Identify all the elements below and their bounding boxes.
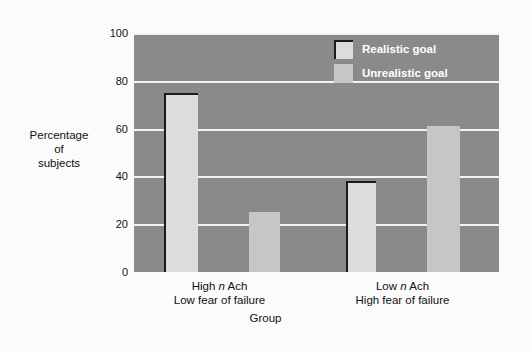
legend-label-realistic: Realistic goal	[362, 43, 436, 55]
legend-item-unrealistic: Unrealistic goal	[334, 62, 448, 84]
y-tick-20: 20	[116, 218, 128, 230]
y-axis-title-line2: of	[22, 142, 96, 156]
bar-chart-figure: Realistic goal Unrealistic goal 100 80 6…	[0, 0, 531, 352]
legend-swatch-realistic-icon	[334, 40, 353, 59]
bar-high-nach-unrealistic	[249, 212, 280, 272]
legend-label-unrealistic: Unrealistic goal	[362, 67, 448, 79]
x-category-high-nach-line1: High n Ach	[137, 279, 302, 293]
x-cat1-pre: High	[192, 280, 219, 292]
bar-low-nach-unrealistic	[427, 126, 460, 272]
bar-high-nach-realistic	[164, 93, 198, 272]
x-axis-title: Group	[0, 312, 531, 324]
x-cat1-post: Ach	[225, 280, 247, 292]
x-cat2-post: Ach	[407, 280, 429, 292]
plot-area: Realistic goal Unrealistic goal	[134, 33, 499, 272]
x-category-high-nach-line2: Low fear of failure	[137, 293, 302, 307]
chart-legend: Realistic goal Unrealistic goal	[334, 38, 448, 86]
x-category-low-nach-line1: Low n Ach	[320, 279, 485, 293]
y-tick-40: 40	[116, 170, 128, 182]
x-cat2-pre: Low	[376, 280, 400, 292]
y-axis-title-line1: Percentage	[22, 128, 96, 142]
x-category-low-nach-line2: High fear of failure	[320, 293, 485, 307]
y-axis-title: Percentage of subjects	[22, 128, 96, 170]
y-tick-100: 100	[110, 27, 128, 39]
y-tick-60: 60	[116, 123, 128, 135]
legend-swatch-unrealistic-icon	[334, 64, 353, 83]
x-category-low-nach: Low n Ach High fear of failure	[320, 279, 485, 307]
y-tick-80: 80	[116, 75, 128, 87]
y-axis-ticks: 100 80 60 40 20 0	[98, 33, 128, 272]
legend-item-realistic: Realistic goal	[334, 38, 448, 60]
y-axis-title-line3: subjects	[22, 156, 96, 170]
x-category-high-nach: High n Ach Low fear of failure	[137, 279, 302, 307]
gridline-100	[134, 33, 499, 35]
y-tick-0: 0	[122, 266, 128, 278]
bar-low-nach-realistic	[346, 181, 376, 272]
